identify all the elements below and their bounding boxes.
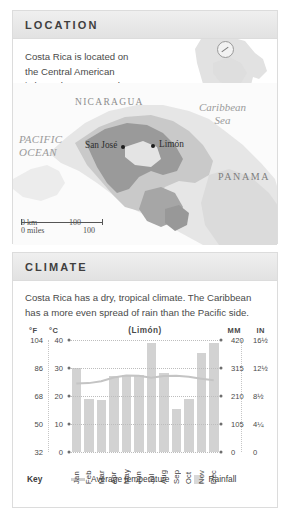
city-marker-san-jose [121, 145, 125, 149]
month-label: Feb [83, 454, 96, 484]
climate-header: CLIMATE [13, 253, 277, 281]
location-header: LOCATION [13, 11, 277, 39]
chart-gridline [70, 396, 220, 397]
axis-tick-millimetres: 315 [231, 364, 244, 373]
axis-tick-fahrenheit: 50 [35, 420, 43, 429]
axis-tick-fahrenheit: 68 [35, 392, 43, 401]
city-marker-limon [151, 144, 155, 148]
axis-tick-millimetres: 420 [231, 336, 244, 345]
scale-rule [21, 219, 103, 225]
page-root: LOCATION [0, 0, 290, 522]
month-label: Jan [70, 454, 83, 484]
month-label: Sep [170, 454, 183, 484]
chart-right-axis: 42016½31512½2108½1054¼00 [221, 340, 267, 452]
climate-description: Costa Rica has a dry, tropical climate. … [13, 281, 277, 324]
location-panel: LOCATION [12, 10, 278, 244]
axis-tick-fahrenheit: 104 [30, 336, 43, 345]
map-scale-bar: 0 km 100 0 miles 100 [21, 218, 129, 237]
chart-gridline [70, 340, 220, 341]
axis-tick-millimetres: 210 [231, 392, 244, 401]
axis-tick-celsius: 0 [47, 448, 63, 457]
axis-tick-millimetres: 0 [231, 448, 235, 457]
axis-tick-inches: 16½ [253, 336, 268, 345]
climate-panel: CLIMATE Costa Rica has a dry, tropical c… [12, 252, 278, 508]
month-label: Aug [158, 454, 171, 484]
month-label: Jul [145, 454, 158, 484]
city-label-san-jose: San José [85, 140, 117, 150]
axis-tick-celsius: 10 [47, 420, 63, 429]
axis-tick-fahrenheit: 86 [35, 364, 43, 373]
chart-plot-area [70, 340, 220, 452]
month-label: Nov [195, 454, 208, 484]
climate-title: CLIMATE [25, 261, 88, 273]
month-label: Oct [183, 454, 196, 484]
chart-month-labels: JanFebMarAprMayJunJulAugSepOctNovDec [70, 454, 220, 484]
city-label-limon: Limón [159, 139, 184, 149]
axis-tick-celsius: 20 [47, 392, 63, 401]
scale-miles-zero: 0 miles [21, 226, 44, 235]
month-label: May [120, 454, 133, 484]
month-label: Mar [95, 454, 108, 484]
axis-tick-celsius: 30 [47, 364, 63, 373]
month-label: Jun [133, 454, 146, 484]
unit-millimetres: MM [228, 326, 242, 335]
chart-gridline [70, 368, 220, 369]
scale-miles-labels: 0 miles 100 [21, 226, 129, 237]
chart-gridline [70, 452, 220, 453]
month-label: Dec [208, 454, 221, 484]
legend-key-label: Key [27, 474, 71, 484]
location-body: NICARAGUA PANAMA Caribbean Sea PACIFIC O… [13, 39, 277, 245]
climate-chart: °F °C (Limón) MM IN 10440863068205010320… [23, 326, 267, 472]
compass-icon [217, 41, 234, 58]
axis-tick-millimetres: 105 [231, 420, 244, 429]
axis-tick-inches: 4¼ [253, 420, 264, 429]
climate-body: Costa Rica has a dry, tropical climate. … [13, 281, 277, 509]
costa-rica-map: NICARAGUA PANAMA Caribbean Sea PACIFIC O… [13, 83, 277, 245]
scale-miles-max: 100 [83, 226, 95, 235]
axis-tick-inches: 12½ [253, 364, 268, 373]
location-title: LOCATION [25, 19, 98, 31]
axis-tick-fahrenheit: 32 [35, 448, 43, 457]
axis-tick-inches: 0 [253, 448, 257, 457]
chart-gridline [70, 424, 220, 425]
axis-tick-inches: 8½ [253, 392, 264, 401]
unit-inches: IN [257, 326, 266, 335]
temperature-polyline [76, 376, 213, 384]
chart-left-axis: 10440863068205010320 [23, 340, 69, 452]
axis-tick-celsius: 40 [47, 336, 63, 345]
month-label: Apr [108, 454, 121, 484]
chart-plot-wrapper: 10440863068205010320 42016½31512½2108½10… [23, 340, 267, 452]
